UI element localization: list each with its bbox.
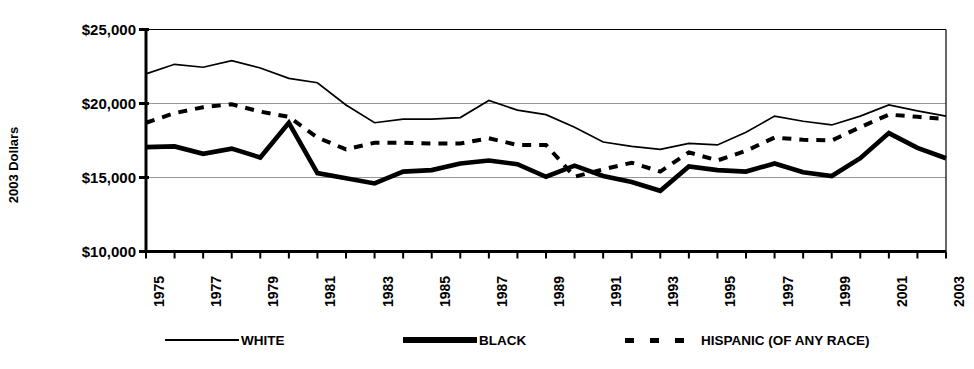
- series-line-black: [146, 123, 946, 191]
- x-tick-label-1979: 1979: [266, 275, 280, 306]
- series-line-white: [146, 61, 946, 150]
- x-tick-label-1987: 1987: [495, 275, 509, 306]
- x-tick-label-1989: 1989: [552, 275, 566, 306]
- legend-label-black: BLACK: [479, 333, 526, 348]
- legend-swatch-black-solid-thick-icon: [403, 333, 477, 347]
- x-tick-label-1997: 1997: [781, 275, 795, 306]
- legend-label-hispanic: HISPANIC (OF ANY RACE): [701, 333, 870, 348]
- chart-legend: WHITE BLACK HISPANIC (OF ANY RACE): [0, 330, 974, 360]
- legend-label-white: WHITE: [241, 333, 285, 348]
- x-tick-label-1981: 1981: [323, 275, 337, 306]
- x-tick-label-1983: 1983: [381, 275, 395, 306]
- legend-item-white: WHITE: [165, 330, 285, 350]
- legend-swatch-white-solid-thin-icon: [165, 333, 239, 347]
- x-tick-label-1995: 1995: [723, 275, 737, 306]
- x-tick-label-2001: 2001: [895, 275, 909, 306]
- x-tick-label-2003: 2003: [952, 275, 966, 306]
- x-tick-label-1993: 1993: [666, 275, 680, 306]
- x-tick-label-1991: 1991: [609, 275, 623, 306]
- plot-area: [0, 0, 974, 369]
- x-tick-label-1999: 1999: [838, 275, 852, 306]
- legend-swatch-hispanic-dashed-icon: [625, 333, 699, 347]
- x-tick-label-1985: 1985: [438, 275, 452, 306]
- x-tick-label-1977: 1977: [209, 275, 223, 306]
- x-tick-label-1975: 1975: [152, 275, 166, 306]
- legend-item-hispanic: HISPANIC (OF ANY RACE): [625, 330, 870, 350]
- legend-item-black: BLACK: [403, 330, 526, 350]
- chart-container: 2003 Dollars $10,000$15,000$20,000$25,00…: [0, 0, 974, 369]
